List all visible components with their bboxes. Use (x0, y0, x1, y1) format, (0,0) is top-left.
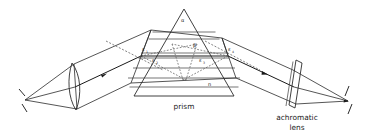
internal-rays (131, 30, 236, 83)
ray-converge-bottom (296, 101, 348, 104)
internal-ray-lower (131, 78, 236, 83)
aux-dash-cross (172, 44, 183, 80)
slit-tick-upper (19, 89, 25, 96)
screen-tick-upper (345, 86, 349, 96)
ray-converge-mid (294, 87, 348, 101)
angle-label-eps1-base: ε (142, 46, 145, 52)
achromatic-lens-body (289, 60, 302, 108)
ray-exit-mid (228, 56, 294, 87)
ray-exit-top (222, 38, 293, 70)
angle-label-eps4: ε 4 (228, 46, 234, 54)
angle-label-beta: β (193, 42, 196, 49)
angle-label-eps2-base: ε (152, 57, 155, 63)
ray-source-to-lens-bottom (25, 100, 77, 109)
slit-tick-lower (22, 104, 27, 112)
converging-beam (293, 70, 349, 104)
prism-caption: prism (174, 102, 195, 111)
angle-label-eps2-sub: 2 (156, 61, 158, 65)
angle-label-apex: α (181, 17, 185, 23)
angle-label-eps4-base: ε (228, 46, 231, 52)
ray-source-to-lens-mid (25, 87, 75, 100)
angle-label-eps4-sub: 4 (232, 50, 234, 54)
angle-label-eps3-sub: 3 (203, 61, 205, 65)
internal-ray-upper (151, 30, 222, 38)
ray-lens-to-prism-bottom (77, 83, 131, 109)
achromatic-lens-caption-line1: achromatic (276, 113, 317, 122)
exit-face-construction (172, 41, 260, 80)
screen-tick-lower (348, 104, 352, 114)
achromatic-lens-caption-line2: lens (289, 123, 304, 132)
ray-converge-top (293, 70, 348, 101)
refractive-index-label: n (208, 81, 211, 87)
optics-figure: α β ε 1 ε 2 ε 3 ε 4 n prism achromatic l… (0, 0, 371, 135)
ray-lens-to-prism-top (74, 30, 151, 64)
arrow-exit-direction (262, 71, 269, 75)
ray-diagram-canvas: α β ε 1 ε 2 ε 3 ε 4 n prism achromatic l… (0, 0, 371, 135)
incident-beam-bundle (25, 30, 151, 109)
angle-label-eps1-sub: 1 (146, 50, 148, 54)
ray-source-to-lens-top (25, 64, 74, 100)
angle-label-eps3-base: ε (199, 57, 202, 63)
aux-dash-entry-a (141, 44, 197, 56)
aux-dash-exit-a (172, 44, 228, 56)
aux-dash-cross2 (186, 44, 197, 80)
